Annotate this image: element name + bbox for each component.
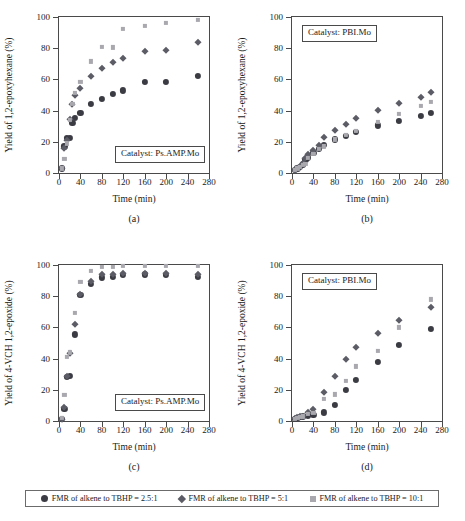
x-axis-tick-label: 280 xyxy=(435,178,449,187)
data-point xyxy=(322,397,326,401)
data-point xyxy=(164,264,168,268)
data-point xyxy=(70,101,74,105)
y-axis-tick xyxy=(286,359,292,360)
data-point xyxy=(396,316,402,322)
data-point xyxy=(374,330,380,336)
y-axis-title: Yield of 4-VCH 1,2-epoxide (%) xyxy=(2,264,16,422)
y-axis-tick xyxy=(286,17,292,18)
y-axis-tick-label: 20 xyxy=(274,137,283,146)
y-axis-tick-label: 40 xyxy=(274,354,283,363)
x-axis-title: Time (min) xyxy=(58,194,210,204)
y-axis-tick xyxy=(53,359,59,360)
x-axis-tick-label: 0 xyxy=(290,178,295,187)
data-point xyxy=(141,47,147,53)
legend-item: FMR of alkene to TBHP = 2.5:1 xyxy=(41,494,158,503)
x-axis-tick-label: 280 xyxy=(202,426,216,435)
data-point xyxy=(343,379,347,383)
y-axis-tick-label: 100 xyxy=(37,261,51,270)
x-axis-tick-label: 240 xyxy=(181,178,195,187)
data-point xyxy=(60,166,64,170)
data-point xyxy=(353,377,359,383)
x-axis-title: Time (min) xyxy=(291,194,443,204)
x-axis-tick-label: 80 xyxy=(330,426,339,435)
data-point xyxy=(354,364,358,368)
data-point xyxy=(60,416,64,420)
y-axis-tick xyxy=(286,111,292,112)
x-axis-tick-label: 200 xyxy=(159,426,173,435)
data-point xyxy=(321,134,327,140)
data-point xyxy=(121,264,125,268)
y-axis-tick-label: 40 xyxy=(41,354,50,363)
data-point xyxy=(120,54,126,60)
x-axis-tick-label: 200 xyxy=(159,178,173,187)
x-axis-tick-label: 0 xyxy=(57,426,62,435)
plot-area-c: 02040608010004080120160200240280 Catalys… xyxy=(58,264,210,422)
data-point xyxy=(306,412,310,416)
data-point xyxy=(376,349,380,353)
figure-container: Yield of 1,2-epoxyhexane (%) 02040608010… xyxy=(0,0,465,521)
data-point xyxy=(417,94,423,100)
data-point xyxy=(322,144,326,148)
y-axis-tick xyxy=(53,142,59,143)
x-axis-title: Time (min) xyxy=(291,442,443,452)
data-point xyxy=(374,107,380,113)
data-point xyxy=(195,73,201,79)
x-axis-tick-label: 160 xyxy=(138,178,152,187)
data-point xyxy=(429,297,433,301)
y-axis-tick-label: 0 xyxy=(46,169,51,178)
x-axis-tick-label: 160 xyxy=(371,426,385,435)
x-axis-tick-label: 40 xyxy=(76,426,85,435)
data-point xyxy=(77,110,83,116)
data-point xyxy=(396,341,402,347)
data-point xyxy=(72,321,78,327)
x-axis-tick-label: 160 xyxy=(371,178,385,187)
data-point xyxy=(428,304,434,310)
data-point xyxy=(88,73,94,79)
data-point xyxy=(332,373,338,379)
data-point xyxy=(62,393,66,397)
data-point xyxy=(342,387,348,393)
panel-letter-a: (a) xyxy=(58,213,210,224)
x-axis-tick-label: 240 xyxy=(414,178,428,187)
x-axis-tick-label: 40 xyxy=(76,178,85,187)
data-point xyxy=(429,100,433,104)
y-axis-tick xyxy=(53,111,59,112)
y-axis-tick-label: 100 xyxy=(270,13,284,22)
data-point xyxy=(354,129,358,133)
data-point xyxy=(396,100,402,106)
catalyst-annotation: Catalyst: Ps.AMP.Mo xyxy=(115,146,205,163)
y-axis-tick-label: 80 xyxy=(41,44,50,53)
y-axis-tick-label: 20 xyxy=(274,385,283,394)
data-point xyxy=(301,414,305,418)
data-point xyxy=(321,409,327,415)
data-point xyxy=(73,310,77,314)
x-axis-tick-label: 280 xyxy=(202,178,216,187)
data-point xyxy=(143,264,147,268)
x-axis-tick-label: 0 xyxy=(57,178,62,187)
chart-panel-b: Yield of 1,2-epoxyhexane (%) 02040608010… xyxy=(233,2,465,245)
panel-letter-d: (d) xyxy=(291,461,443,472)
filled-diamond-icon xyxy=(178,495,186,503)
panel-letter-b: (b) xyxy=(291,213,443,224)
y-axis-tick xyxy=(286,327,292,328)
y-axis-tick xyxy=(53,390,59,391)
data-point xyxy=(196,18,200,22)
panel-letter-c: (c) xyxy=(58,461,210,472)
data-point xyxy=(428,89,434,95)
data-point xyxy=(89,59,93,63)
plot-area-a: 02040608010004080120160200240280 Catalys… xyxy=(58,16,210,174)
y-axis-tick-label: 40 xyxy=(274,106,283,115)
y-axis-title: Yield of 4-VCH 1,2-epoxide (%) xyxy=(235,264,249,422)
data-point xyxy=(163,47,169,53)
x-axis-tick-label: 120 xyxy=(117,426,131,435)
y-axis-tick xyxy=(286,48,292,49)
data-point xyxy=(332,127,338,133)
data-point xyxy=(142,79,148,85)
y-axis-tick-label: 60 xyxy=(41,75,50,84)
x-axis-tick-label: 80 xyxy=(330,178,339,187)
data-point xyxy=(342,121,348,127)
y-axis-tick-label: 60 xyxy=(274,75,283,84)
data-point xyxy=(143,23,147,27)
data-point xyxy=(121,27,125,31)
plot-area-b: 02040608010004080120160200240280 Catalys… xyxy=(291,16,443,174)
